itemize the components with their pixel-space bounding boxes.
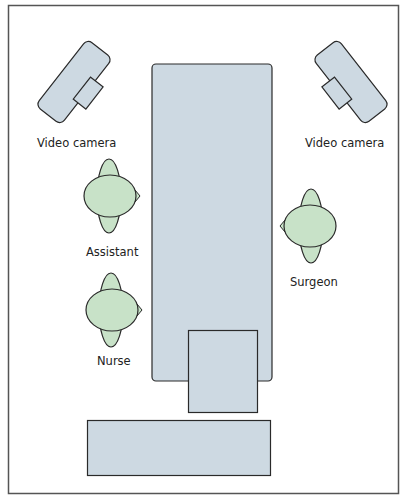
operating-room-diagram: Video camera Video camera Assistant Surg… <box>0 0 415 500</box>
label-video-camera-right: Video camera <box>305 136 384 150</box>
label-assistant: Assistant <box>86 245 139 259</box>
camera-body <box>36 39 113 125</box>
video-camera-left <box>36 39 121 131</box>
label-surgeon: Surgeon <box>290 275 338 289</box>
camera-body <box>313 39 390 125</box>
label-video-camera-left: Video camera <box>37 136 116 150</box>
head <box>84 175 136 217</box>
person-assistant <box>84 159 140 233</box>
head <box>284 205 336 247</box>
person-nurse <box>86 273 142 347</box>
instrument-tray <box>189 331 258 413</box>
side-table <box>88 421 271 476</box>
person-surgeon <box>280 189 336 263</box>
label-nurse: Nurse <box>97 354 131 368</box>
head <box>86 289 138 331</box>
video-camera-right <box>305 39 390 131</box>
